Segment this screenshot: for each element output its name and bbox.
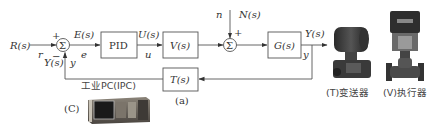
figure-caption: (a) <box>175 95 189 106</box>
actuator-block: V(s) <box>163 32 198 58</box>
plant-label: G(s) <box>274 40 295 51</box>
transmitter-device-label: (T)变送器 <box>326 87 369 98</box>
valve-device-label: (V)执行器 <box>383 87 427 98</box>
error-label-e: e <box>81 49 87 60</box>
actuator-label: V(s) <box>170 40 190 51</box>
plus-sign-1: + <box>52 30 60 41</box>
sigma-symbol-2: Σ <box>226 40 233 51</box>
disturbance-label-N: N(s) <box>238 9 261 20</box>
plus-sign-2: + <box>234 27 242 38</box>
pid-block: PID <box>101 32 137 58</box>
summing-junction-2: Σ <box>224 39 237 52</box>
control-diagram: R(s) r Σ + − E(s) e PID U(s) u V(s) n N(… <box>0 0 434 131</box>
transmitter-block: T(s) <box>163 68 198 91</box>
input-label-R: R(s) <box>9 40 31 51</box>
transmitter-label: T(s) <box>170 74 190 85</box>
output-label-Y: Y(s) <box>305 28 325 39</box>
transmitter-image <box>333 27 371 78</box>
pid-label: PID <box>109 40 128 51</box>
control-label-u: u <box>145 49 151 60</box>
feedback-label-y: y <box>69 57 76 68</box>
disturbance-label-n: n <box>216 9 222 20</box>
feedback-label-Y: Y(s) <box>44 57 64 68</box>
error-label-E: E(s) <box>73 29 94 40</box>
control-label-U: U(s) <box>138 29 159 40</box>
industrial-pc-image <box>88 97 150 124</box>
pc-tag: (C) <box>64 103 80 114</box>
output-label-y: y <box>302 49 309 60</box>
sigma-symbol: Σ <box>59 40 66 51</box>
plant-block: G(s) <box>268 32 301 58</box>
pc-label: 工业PC(IPC) <box>81 80 136 91</box>
valve-actuator-image <box>386 11 424 81</box>
